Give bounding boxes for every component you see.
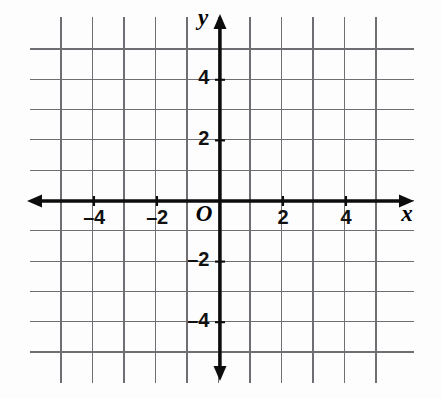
x-tick-label: 2 bbox=[278, 206, 289, 228]
y-tick-label: 4 bbox=[198, 66, 210, 88]
x-tick-label: –4 bbox=[83, 206, 106, 228]
y-tick-label: –2 bbox=[187, 248, 209, 270]
origin-label: O bbox=[196, 201, 213, 226]
y-axis-label: y bbox=[195, 5, 209, 30]
x-axis-label: x bbox=[400, 201, 413, 226]
x-tick-label: 4 bbox=[341, 206, 353, 228]
y-tick-label: –4 bbox=[187, 309, 210, 331]
coordinate-plane-figure: –4–224 42–2–4 O x y bbox=[0, 0, 442, 398]
y-tick-label: 2 bbox=[198, 127, 209, 149]
x-tick-label: –2 bbox=[146, 206, 168, 228]
coordinate-plane-canvas: –4–224 42–2–4 O x y bbox=[0, 0, 442, 398]
